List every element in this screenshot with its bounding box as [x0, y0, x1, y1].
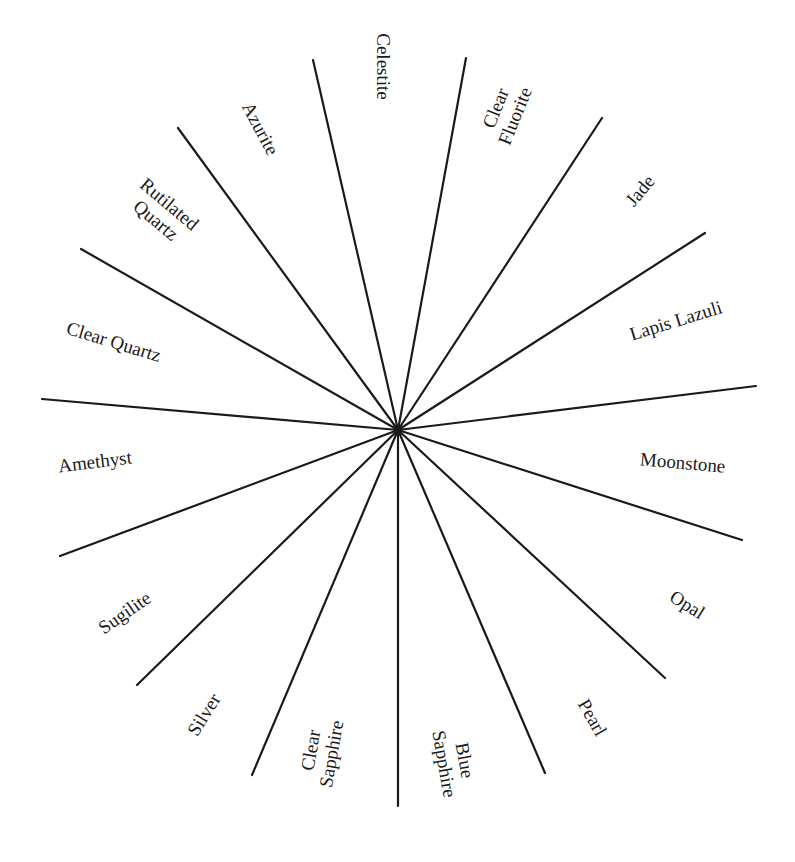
- spoke-line: [398, 430, 742, 540]
- spoke-line: [398, 386, 756, 430]
- wheel-center-hub: [394, 426, 402, 434]
- spoke-line: [398, 430, 665, 678]
- spoke-line: [398, 58, 466, 430]
- label-celestite: Celestite: [373, 33, 394, 99]
- spoke-line: [398, 118, 602, 430]
- spoke-line: [178, 128, 398, 430]
- spoke-line: [137, 430, 398, 685]
- spoke-line: [42, 399, 398, 430]
- spoke-line: [313, 60, 398, 430]
- crystal-wheel: [0, 0, 795, 862]
- label-text: Celestite: [373, 33, 394, 99]
- spoke-line: [398, 430, 545, 773]
